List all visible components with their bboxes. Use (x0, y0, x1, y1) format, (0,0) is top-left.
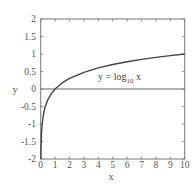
x-tick-label: 8 (154, 160, 159, 170)
x-tick-label: 4 (96, 160, 101, 170)
log-plot: 012345678910 -2-1.5-1-0.500.511.52 x y y… (0, 0, 195, 189)
curve-annotation: y = log10 x (98, 71, 141, 85)
x-tick-label: 5 (110, 160, 115, 170)
x-tick-labels: 012345678910 (38, 160, 189, 170)
y-tick-label: 0.5 (24, 67, 36, 77)
x-tick-label: 0 (38, 160, 43, 170)
y-tick-labels: -2-1.5-1-0.500.511.52 (21, 14, 36, 164)
x-tick-label: 3 (82, 160, 87, 170)
y-tick-label: 1.5 (24, 32, 36, 42)
y-axis-label: y (12, 84, 18, 95)
y-tick-label: 0 (31, 84, 36, 94)
y-tick-label: -2 (28, 154, 36, 164)
x-axis-label: x (108, 171, 114, 182)
x-tick-label: 10 (180, 160, 190, 170)
y-tick-label: 1 (31, 49, 36, 59)
y-tick-label: -1.5 (21, 137, 36, 147)
y-tick-label: -1 (28, 119, 36, 129)
annotation-tail: x (133, 71, 141, 82)
y-tick-label: -0.5 (21, 102, 36, 112)
annotation-main: y = log (98, 71, 126, 82)
x-tick-label: 9 (168, 160, 173, 170)
log10-curve (41, 54, 185, 159)
x-tick-label: 2 (67, 160, 72, 170)
x-tick-label: 1 (53, 160, 58, 170)
y-tick-label: 2 (31, 14, 36, 24)
x-tick-label: 7 (139, 160, 144, 170)
x-tick-label: 6 (125, 160, 130, 170)
